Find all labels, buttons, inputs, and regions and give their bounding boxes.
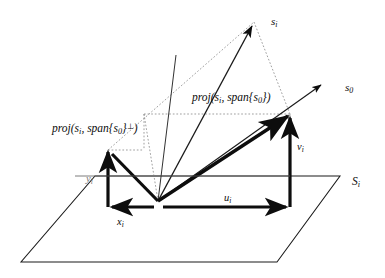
label-proj-perpendicular: proj(si, span{s0}⊥) bbox=[52, 123, 138, 137]
label-v-i: vi bbox=[297, 142, 304, 153]
vector-projection-perp-bold bbox=[112, 154, 158, 201]
plane-outline bbox=[21, 176, 340, 262]
vector-projection-parallel-bold bbox=[158, 116, 288, 201]
label-x-i: xi bbox=[117, 217, 124, 228]
label-u-i: ui bbox=[224, 193, 231, 204]
label-s-i: si bbox=[271, 16, 277, 29]
diagram-svg bbox=[0, 0, 385, 278]
vector-s-i bbox=[158, 26, 252, 201]
label-s-0: s0 bbox=[345, 82, 353, 95]
figure-canvas: si s0 Si vi ui xi yi proj(si, span{s0}) … bbox=[0, 0, 385, 278]
label-proj-parallel: proj(si, span{s0}) bbox=[192, 92, 271, 105]
label-y-i: yi bbox=[86, 174, 93, 185]
origin-rays bbox=[158, 26, 252, 201]
label-plane-s-i: Si bbox=[352, 176, 360, 189]
